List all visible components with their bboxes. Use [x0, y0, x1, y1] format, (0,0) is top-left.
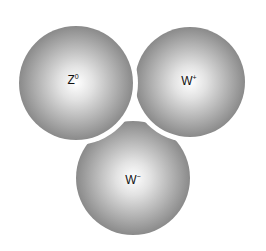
wminus-label: W−	[125, 173, 140, 187]
wminus-symbol: W	[125, 173, 136, 187]
z0-label: Z0	[67, 73, 78, 87]
wplus-label: W+	[181, 74, 196, 88]
wminus-charge: −	[137, 173, 141, 180]
spheres-graphic	[0, 0, 266, 251]
z0-charge: 0	[75, 73, 79, 80]
diagram-canvas: Z0 W+ W−	[0, 0, 266, 251]
wplus-symbol: W	[181, 74, 192, 88]
wplus-charge: +	[193, 74, 197, 81]
